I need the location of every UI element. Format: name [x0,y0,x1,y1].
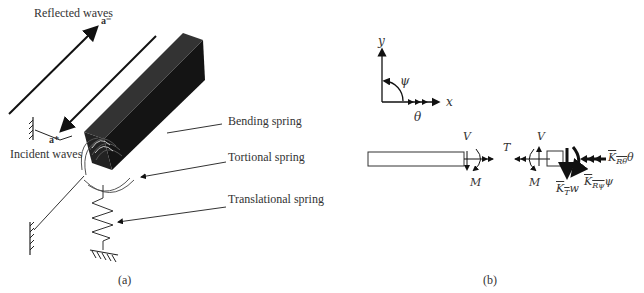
label-a-plus: a⁺ [49,134,59,145]
spring-KT-w: KTw [556,182,579,197]
force-V-right: V [537,130,545,143]
panel-b-graphic [0,0,644,293]
label-incident-waves: Incident waves [10,147,82,162]
label-a-minus: a⁻ [101,15,111,26]
spring-KR-theta: KRθθ [608,151,634,166]
spring-KR-psi: KRψψ [584,175,613,190]
psi-label: ψ [400,74,409,88]
moment-M-left: M [470,176,481,189]
label-torsional-spring: Tortional spring [228,150,305,165]
axis-y-label: y [378,34,385,48]
label-translational-spring: Translational spring [228,192,324,207]
theta-label: θ [414,110,421,124]
axis-x-label: x [446,95,453,109]
label-bending-spring: Bending spring [228,114,302,129]
caption-a: (a) [118,273,131,288]
torque-T: T [503,141,510,154]
caption-b: (b) [483,273,497,288]
moment-M-right: M [529,176,540,189]
beam-segment-left [368,152,464,166]
force-V-left: V [463,130,471,143]
